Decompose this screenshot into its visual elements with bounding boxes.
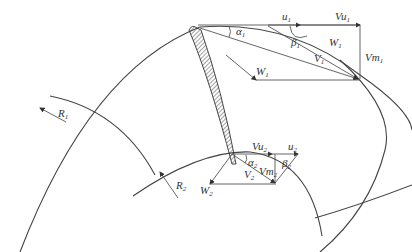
label-beta2: β2 <box>281 157 291 171</box>
label-w1-top: W1 <box>329 36 342 50</box>
blade <box>189 26 236 164</box>
label-beta1: β1 <box>290 36 300 50</box>
label-v1: V1 <box>314 52 324 66</box>
label-vu2: Vu2 <box>252 140 267 154</box>
w1-line <box>268 26 358 79</box>
w2-arrow <box>210 154 232 184</box>
label-w1-left: W1 <box>256 65 269 79</box>
alpha2-angle-arc <box>245 155 247 163</box>
velocity-triangle-diagram: u1 Vu1 α1 β1 W1 V1 Vm1 W1 Vu2 u2 α2 β2 V… <box>0 0 412 252</box>
label-vm1: Vm1 <box>365 51 383 65</box>
label-vu1: Vu1 <box>335 10 350 24</box>
label-u2: u2 <box>288 140 298 154</box>
inner-circle-arc-2 <box>133 152 322 236</box>
outer-circle-arc <box>20 26 412 252</box>
label-w2: W2 <box>200 184 213 198</box>
label-v2: V2 <box>244 168 255 182</box>
label-r1: R1 <box>57 107 68 121</box>
label-u1: u1 <box>282 10 291 24</box>
label-r2: R2 <box>175 179 187 193</box>
inner-circle-arc <box>50 96 155 175</box>
outer-circle-arc-right <box>320 60 387 252</box>
alpha1-angle-arc <box>229 26 231 37</box>
w1-left-arrow <box>226 55 256 80</box>
